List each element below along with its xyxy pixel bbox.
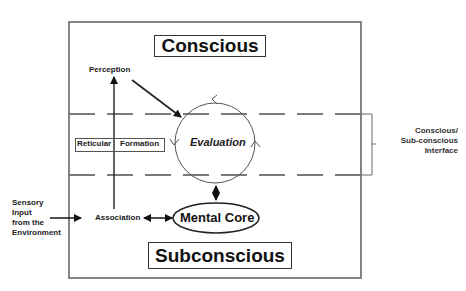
formation-label: Formation (120, 139, 159, 149)
interface-bracket (361, 114, 372, 175)
sensory-line1: Sensory (12, 198, 61, 208)
perception-label: Perception (89, 65, 130, 75)
evaluation-label: Evaluation (190, 136, 246, 148)
interface-label: Conscious/ Sub-conscious Interface (378, 126, 458, 156)
sensory-line2: Input (12, 208, 61, 218)
conscious-label-text: Conscious (161, 35, 258, 57)
association-label: Association (95, 213, 140, 223)
sensory-input-label: Sensory Input from the Environment (12, 198, 61, 238)
mental-core-label: Mental Core (180, 210, 254, 225)
subconscious-label-text: Subconscious (155, 245, 285, 267)
perception-to-evaluation-arrow (132, 80, 181, 117)
cycle-chevron-right-icon (251, 141, 260, 147)
cycle-chevron-left-icon (170, 139, 179, 145)
sensory-line3: from the (12, 218, 61, 228)
interface-label-line2: Sub-conscious (378, 136, 458, 146)
subconscious-region-label: Subconscious (148, 242, 292, 269)
reticular-label: Reticular (77, 139, 111, 149)
conscious-region-label: Conscious (154, 35, 266, 57)
sensory-line4: Environment (12, 228, 61, 238)
interface-label-line3: Interface (378, 146, 458, 156)
interface-label-line1: Conscious/ (378, 126, 458, 136)
